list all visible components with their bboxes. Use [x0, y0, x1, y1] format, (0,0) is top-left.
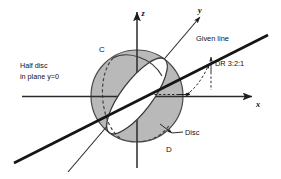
x-axis-label: x — [255, 100, 260, 109]
direction-ratio-label: DR 3:2:1 — [215, 59, 244, 68]
half-disc-label-line2: in plane y=0 — [20, 72, 59, 81]
given-line-label: Given line — [196, 34, 229, 43]
figure-root: x z y Given — [0, 0, 281, 179]
diagram-canvas: x z y Given — [0, 0, 281, 179]
y-axis-label: y — [197, 6, 202, 15]
disc-leader-line — [172, 132, 183, 133]
disc-label: Disc — [185, 128, 200, 137]
half-disc-label-line1: Half disc — [20, 61, 48, 70]
half-disc-callout: Half disc in plane y=0 — [20, 61, 59, 81]
z-axis-label: z — [141, 9, 146, 18]
point-d-label: D — [166, 145, 172, 154]
point-c-label: C — [99, 45, 105, 54]
